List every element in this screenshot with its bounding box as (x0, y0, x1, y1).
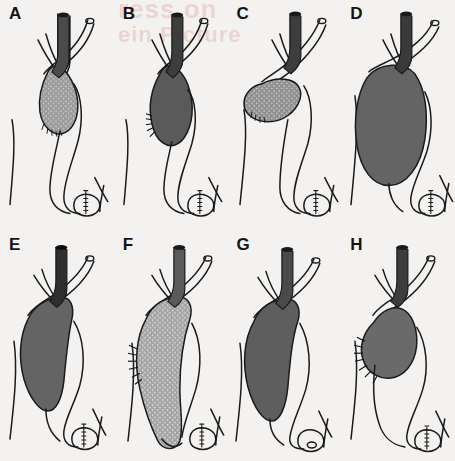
panel-g: G (228, 231, 342, 461)
panel-b: B (114, 0, 228, 231)
panel-d: D (341, 0, 455, 231)
panel-b-label: B (123, 4, 135, 24)
panel-c-label: C (237, 4, 249, 24)
panel-c-illustration (228, 0, 342, 231)
panel-d-label: D (350, 4, 362, 24)
figure-root: ress on ein Picture A (0, 0, 455, 461)
panel-b-illustration (114, 0, 228, 231)
panel-e-illustration (0, 231, 114, 461)
panel-a: A (0, 0, 114, 231)
panel-g-illustration (228, 231, 342, 461)
panel-e-label: E (9, 235, 20, 255)
panel-h-illustration (341, 231, 455, 461)
panel-f: F (114, 231, 228, 461)
panel-a-label: A (9, 4, 21, 24)
panel-d-illustration (341, 0, 455, 231)
panel-f-illustration (114, 231, 228, 461)
panel-e: E (0, 231, 114, 461)
panel-g-label: G (237, 235, 250, 255)
panel-grid: A (0, 0, 455, 461)
panel-f-label: F (123, 235, 133, 255)
panel-a-illustration (0, 0, 114, 231)
panel-h: H (341, 231, 455, 461)
panel-c: C (228, 0, 342, 231)
panel-h-label: H (350, 235, 362, 255)
